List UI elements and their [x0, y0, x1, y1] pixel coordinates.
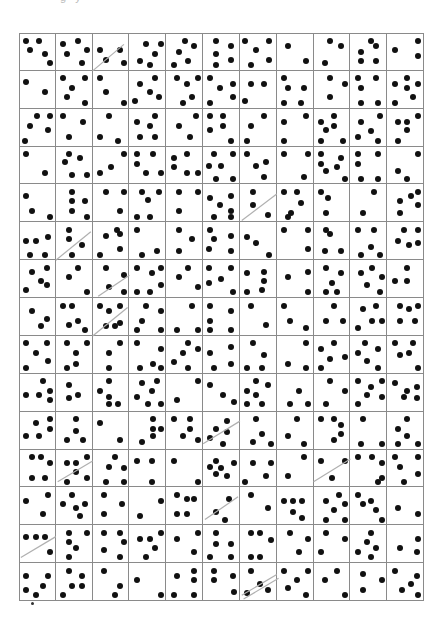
pattern-cell: [93, 109, 130, 147]
dot: [182, 38, 188, 44]
dot: [207, 435, 213, 441]
dot: [414, 384, 420, 390]
dot: [23, 287, 29, 293]
dot: [184, 511, 190, 517]
dot: [207, 464, 213, 470]
dot: [410, 340, 416, 346]
dot: [47, 460, 53, 466]
dot: [331, 437, 337, 443]
pattern-cell: [56, 33, 93, 71]
dot: [69, 583, 75, 589]
dot: [213, 541, 219, 547]
dot: [185, 58, 191, 64]
dot: [184, 81, 190, 87]
dot: [368, 128, 374, 134]
dot: [327, 75, 333, 81]
dot: [230, 573, 236, 579]
dot: [47, 549, 53, 555]
dot: [379, 441, 385, 447]
dot: [66, 236, 72, 242]
dot: [281, 75, 287, 81]
dot: [79, 583, 85, 589]
dot: [23, 573, 29, 579]
dot: [154, 378, 160, 384]
dot: [287, 318, 293, 324]
dot: [139, 318, 145, 324]
dot: [355, 151, 361, 157]
dot: [191, 496, 197, 502]
pattern-cell: [350, 525, 387, 563]
dot: [44, 340, 50, 346]
pattern-cell: [93, 71, 130, 109]
dot: [261, 269, 267, 275]
dot: [73, 460, 79, 466]
dot: [139, 439, 145, 445]
dot: [261, 113, 267, 119]
pattern-cell: [93, 33, 130, 71]
pattern-cell: [387, 147, 424, 185]
dot: [171, 416, 177, 422]
dot: [143, 170, 149, 176]
pattern-cell: [129, 260, 166, 298]
dot: [211, 214, 217, 220]
dot: [66, 539, 72, 545]
pattern-cell: [277, 298, 314, 336]
dot: [415, 441, 421, 447]
dot: [174, 327, 180, 333]
dot: [415, 536, 421, 542]
pattern-cell: [56, 109, 93, 147]
dot: [392, 278, 398, 284]
dot: [305, 568, 311, 574]
dot: [318, 416, 324, 422]
dot: [368, 530, 374, 536]
dot: [158, 327, 164, 333]
dot: [207, 382, 213, 388]
dot: [224, 418, 230, 424]
dot: [281, 119, 287, 125]
dot: [303, 113, 309, 119]
dot: [318, 346, 324, 352]
dot: [23, 340, 29, 346]
dot: [338, 155, 344, 161]
dot: [64, 340, 70, 346]
dot: [230, 94, 236, 100]
pattern-cell: [387, 525, 424, 563]
dot: [266, 38, 272, 44]
dot: [47, 113, 53, 119]
dot: [121, 100, 127, 106]
dot: [406, 242, 412, 248]
dot: [322, 60, 328, 66]
dot: [33, 534, 39, 540]
dot: [60, 501, 66, 507]
pattern-cell: [93, 184, 130, 222]
dot: [101, 547, 107, 553]
dot: [191, 568, 197, 574]
pattern-cell: [350, 450, 387, 488]
dot: [364, 392, 370, 398]
dot: [158, 365, 164, 371]
dot: [331, 303, 337, 309]
dot: [305, 151, 311, 157]
dot: [228, 554, 234, 560]
dot: [189, 303, 195, 309]
dot: [228, 308, 234, 314]
dot: [184, 151, 190, 157]
pattern-cell: [240, 487, 277, 525]
pattern-cell: [19, 184, 56, 222]
dot: [285, 473, 291, 479]
dot: [253, 392, 259, 398]
pattern-cell: [166, 563, 203, 601]
dot: [244, 234, 250, 240]
dot: [244, 270, 250, 276]
dot: [329, 475, 335, 481]
dot: [323, 517, 329, 523]
pattern-cell: [387, 336, 424, 374]
dot: [154, 248, 160, 254]
dot: [23, 392, 29, 398]
dot: [303, 325, 309, 331]
dot: [266, 57, 272, 63]
dot: [132, 98, 138, 104]
dot: [82, 327, 88, 333]
dot: [373, 43, 379, 49]
dot: [355, 492, 361, 498]
